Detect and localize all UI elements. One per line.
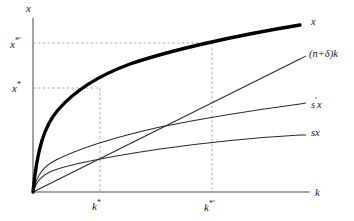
- label-leaders: [300, 56, 306, 135]
- x-tick-k-star: k*: [92, 199, 101, 212]
- curve-sx: [33, 135, 300, 192]
- axes: [33, 18, 310, 192]
- curve-label-production: x: [311, 17, 316, 28]
- curve-n-plus-delta-k: [33, 59, 300, 192]
- curve-label-saving-low: sx: [311, 128, 320, 139]
- y-tick-x-star-prime-prime: ′: [19, 35, 21, 45]
- y-tick-x-star-star: *: [17, 80, 21, 89]
- x-tick-k-star-star: *: [97, 198, 101, 207]
- x-axis-label: k: [315, 187, 320, 198]
- solow-growth-chart: x k x*′ x* k* k*′ x (n+δ)k s′x sx: [0, 0, 354, 221]
- curve-label-saving-high: s′x: [311, 96, 322, 110]
- leader-n-plus-delta-k: [300, 56, 306, 59]
- curve-label-depreciation: (n+δ)k: [309, 49, 338, 60]
- curve-production-x: [33, 25, 300, 192]
- plot-area: [0, 0, 354, 221]
- leader-s-prime-x: [300, 103, 306, 104]
- x-tick-k-star-prime: k*′: [204, 199, 215, 213]
- y-tick-x-star: x*: [12, 81, 21, 94]
- curve-label-saving-high-x: x: [317, 99, 322, 110]
- y-tick-x-star-prime: x*′: [10, 36, 21, 50]
- x-tick-k-star-prime-prime: ′: [213, 198, 215, 208]
- y-axis-label: x: [26, 3, 31, 14]
